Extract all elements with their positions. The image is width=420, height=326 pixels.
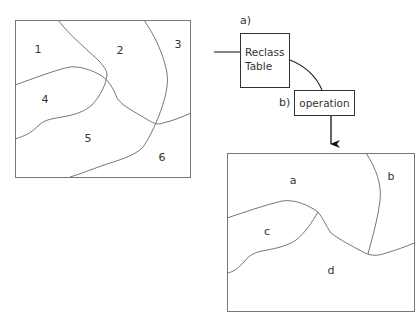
zone-label-4: 4 <box>42 93 49 106</box>
step-a-label: a) <box>240 14 251 27</box>
step-b-label: b) <box>279 96 290 109</box>
zone-label-c: c <box>264 225 270 238</box>
reclass-table-label-line1: Reclass <box>245 46 284 58</box>
zone-label-3: 3 <box>175 38 182 51</box>
zone-label-1: 1 <box>35 43 42 56</box>
input-zone-labels: 1 2 3 4 5 6 <box>35 38 182 164</box>
input-boundary-1-2 <box>15 20 107 139</box>
zone-label-b: b <box>388 170 395 183</box>
reclass-table-label-line2: Table <box>244 60 272 72</box>
reclassification-diagram: 1 2 3 4 5 6 a) Reclass Table b) operatio… <box>0 0 420 326</box>
output-map-frame <box>228 154 415 312</box>
zone-label-a: a <box>290 174 297 187</box>
output-map: a b c d <box>227 153 415 312</box>
operation-label: operation <box>299 97 349 109</box>
output-boundary-a-b <box>366 153 380 254</box>
operation-step: b) operation <box>279 91 355 145</box>
input-map: 1 2 3 4 5 6 <box>15 20 191 178</box>
zone-label-6: 6 <box>159 151 166 164</box>
zone-label-5: 5 <box>85 132 92 145</box>
reclass-step: a) Reclass Table <box>214 14 322 90</box>
output-boundary-a-c <box>227 201 414 256</box>
zone-label-2: 2 <box>117 44 124 57</box>
output-boundary-c-d <box>227 212 318 273</box>
output-zone-labels: a b c d <box>264 170 395 277</box>
reclass-to-operation-curve <box>290 60 322 90</box>
zone-label-d: d <box>328 264 335 277</box>
